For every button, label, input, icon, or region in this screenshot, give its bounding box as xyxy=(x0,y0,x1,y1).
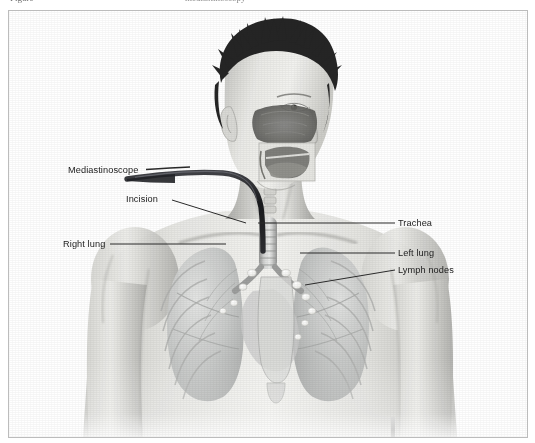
scan-texture-overlay xyxy=(9,11,527,437)
label-left-lung: Left lung xyxy=(398,248,434,258)
caption-leading-text: Figure xyxy=(10,0,34,3)
caption-trailing-text: mediastinoscopy xyxy=(185,0,246,3)
label-right-lung: Right lung xyxy=(63,239,105,249)
label-trachea: Trachea xyxy=(398,218,432,228)
figure-frame xyxy=(8,10,528,438)
figure-canvas xyxy=(9,11,527,437)
label-mediastinoscope: Mediastinoscope xyxy=(68,165,138,175)
figure-caption-strip: Figure mediastinoscopy xyxy=(0,0,535,9)
label-lymph-nodes: Lymph nodes xyxy=(398,265,454,275)
label-incision: Incision xyxy=(126,194,158,204)
scan-artifact xyxy=(391,417,395,438)
